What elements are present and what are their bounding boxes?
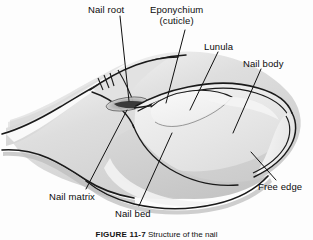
label-eponychium: Eponychium (cuticle) (150, 4, 203, 26)
label-nail-matrix: Nail matrix (49, 191, 95, 202)
label-nail-root: Nail root (88, 4, 124, 15)
figure-caption-number: FIGURE 11-7 (96, 230, 146, 239)
label-eponychium-line1: Eponychium (150, 4, 203, 15)
label-nail-bed: Nail bed (115, 208, 151, 219)
nail-anatomy-illustration (0, 0, 313, 240)
figure-container: Nail root Eponychium (cuticle) Lunula Na… (0, 0, 313, 240)
figure-caption: FIGURE 11-7 Structure of the nail (0, 230, 313, 240)
label-free-edge: Free edge (258, 181, 302, 192)
label-lunula: Lunula (204, 41, 233, 52)
label-nail-body: Nail body (243, 58, 284, 69)
label-eponychium-line2: (cuticle) (150, 15, 203, 26)
figure-caption-text: Structure of the nail (148, 230, 217, 239)
